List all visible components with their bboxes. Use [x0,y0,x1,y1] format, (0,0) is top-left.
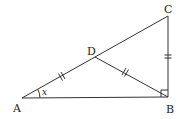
angle-arc-icon [38,89,40,98]
label-a: A [12,102,22,115]
angle-label-x: x [42,87,47,97]
label-c: C [164,3,172,16]
label-b: B [166,103,174,116]
segment-ab [22,97,168,98]
segment-db [95,57,168,97]
tick-marks-ad [59,72,66,81]
triangle-diagram: A B C D x [0,0,184,119]
label-d: D [87,45,96,58]
